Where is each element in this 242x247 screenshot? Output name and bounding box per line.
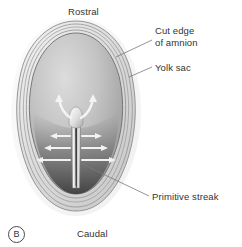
label-rostral: Rostral xyxy=(68,6,99,18)
label-cut-edge-of-amnion: Cut edge of amnion xyxy=(155,25,198,48)
embryo-diagram-panel-b xyxy=(0,0,242,247)
label-primitive-streak: Primitive streak xyxy=(152,191,219,203)
label-caudal: Caudal xyxy=(77,228,108,240)
panel-letter-badge: B xyxy=(8,226,25,243)
label-yolk-sac: Yolk sac xyxy=(155,62,191,74)
